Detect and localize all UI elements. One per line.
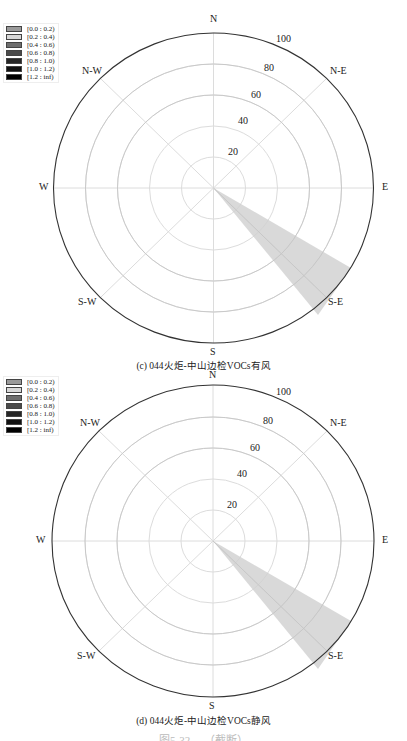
radial-tick-100: 100	[276, 33, 291, 44]
radial-tick-60: 60	[251, 89, 261, 100]
legend-swatch	[6, 74, 22, 80]
radial-tick-60: 60	[250, 442, 260, 453]
legend-swatch	[6, 387, 22, 393]
legend-label: [1.2 : inf)	[27, 426, 54, 434]
legend-item: [0.6 : 0.8)	[6, 402, 55, 410]
legend-swatch	[6, 66, 22, 72]
legend-label: [0.0 : 0.2)	[27, 378, 55, 386]
legend-swatch	[6, 395, 22, 401]
legend-item: [0.6 : 0.8)	[6, 49, 55, 57]
direction-ne: N-E	[330, 65, 347, 76]
legend-label: [0.2 : 0.4)	[27, 386, 55, 394]
legend-swatch	[6, 42, 22, 48]
legend-swatch	[6, 50, 22, 56]
direction-e: E	[382, 534, 388, 545]
direction-n: N	[209, 369, 216, 380]
legend-item: [1.2 : inf)	[6, 426, 55, 434]
legend-label: [0.6 : 0.8)	[27, 49, 55, 57]
figure-caption: 图5-32 …（截断）	[0, 731, 407, 741]
legend-item: [0.8 : 1.0)	[6, 57, 55, 65]
direction-sw: S-W	[78, 296, 96, 307]
radial-tick-80: 80	[263, 415, 273, 426]
radial-tick-20: 20	[227, 499, 237, 510]
direction-sw: S-W	[77, 650, 95, 661]
legend-item: [1.0 : 1.2)	[6, 65, 55, 73]
wind-rose-chart-c	[0, 0, 407, 370]
legend-label: [0.2 : 0.4)	[27, 33, 55, 41]
legend-label: [0.6 : 0.8)	[27, 402, 55, 410]
direction-w: W	[39, 181, 48, 192]
legend-label: [0.8 : 1.0)	[27, 410, 55, 418]
direction-nw: N-W	[80, 417, 100, 428]
legend-label: [1.0 : 1.2)	[27, 418, 55, 426]
direction-w: W	[36, 534, 45, 545]
legend-swatch	[6, 427, 22, 433]
legend-swatch	[6, 419, 22, 425]
legend: [0.0 : 0.2) [0.2 : 0.4) [0.4 : 0.6) [0.6…	[3, 23, 59, 83]
legend-item: [0.2 : 0.4)	[6, 33, 55, 41]
radial-tick-80: 80	[264, 62, 274, 73]
legend-label: [1.0 : 1.2)	[27, 65, 55, 73]
radial-tick-40: 40	[237, 468, 247, 479]
wind-rose-panel-c: N N-E E S-E S S-W W N-W 20 40 60 80 100 …	[0, 0, 407, 370]
legend-item: [0.8 : 1.0)	[6, 410, 55, 418]
radial-tick-100: 100	[276, 386, 291, 397]
legend-item: [1.2 : inf)	[6, 73, 55, 81]
wind-rose-chart-d	[0, 353, 407, 723]
legend-swatch	[6, 34, 22, 40]
direction-se: S-E	[328, 650, 343, 661]
direction-e: E	[382, 181, 388, 192]
legend-label: [1.2 : inf)	[27, 73, 54, 81]
wind-rose-panel-d: N N-E E S-E S S-W W N-W 20 40 60 80 100 …	[0, 353, 407, 723]
legend-label: [0.4 : 0.6)	[27, 41, 55, 49]
direction-nw: N-W	[82, 65, 102, 76]
legend-label: [0.8 : 1.0)	[27, 57, 55, 65]
legend-swatch	[6, 58, 22, 64]
legend-item: [0.0 : 0.2)	[6, 378, 55, 386]
legend-swatch	[6, 379, 22, 385]
legend-item: [0.0 : 0.2)	[6, 25, 55, 33]
legend-label: [0.4 : 0.6)	[27, 394, 55, 402]
legend-label: [0.0 : 0.2)	[27, 25, 55, 33]
legend-item: [0.2 : 0.4)	[6, 386, 55, 394]
direction-ne: N-E	[330, 417, 347, 428]
panel-caption: (d) 044火炬-中山边检VOCs静风	[0, 713, 407, 727]
direction-s: S	[209, 700, 215, 711]
radial-tick-40: 40	[238, 115, 248, 126]
legend-swatch	[6, 411, 22, 417]
legend-item: [0.4 : 0.6)	[6, 394, 55, 402]
direction-n: N	[210, 13, 217, 24]
legend: [0.0 : 0.2) [0.2 : 0.4) [0.4 : 0.6) [0.6…	[3, 376, 59, 436]
direction-se: S-E	[328, 296, 343, 307]
legend-item: [1.0 : 1.2)	[6, 418, 55, 426]
legend-item: [0.4 : 0.6)	[6, 41, 55, 49]
legend-swatch	[6, 26, 22, 32]
legend-swatch	[6, 403, 22, 409]
radial-tick-20: 20	[228, 146, 238, 157]
